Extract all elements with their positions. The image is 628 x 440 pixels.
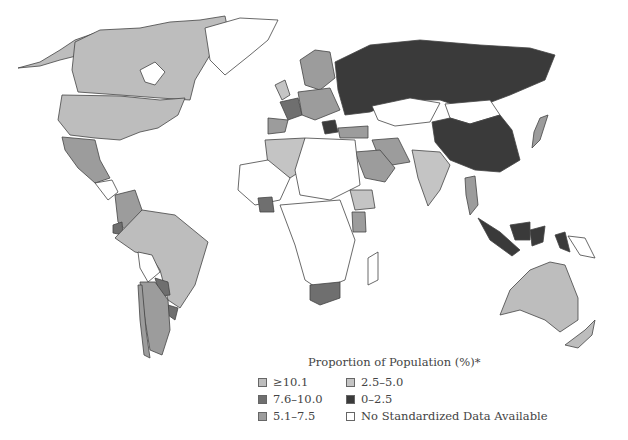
legend-swatch bbox=[258, 412, 267, 421]
region-france bbox=[280, 98, 302, 120]
region-central-europe bbox=[298, 88, 340, 120]
legend-swatch bbox=[346, 378, 355, 387]
region-balkans bbox=[322, 120, 338, 134]
region-indonesia bbox=[478, 218, 570, 256]
region-papua bbox=[568, 236, 595, 258]
legend-swatch bbox=[258, 395, 267, 404]
region-madagascar bbox=[368, 252, 378, 285]
region-scandinavia bbox=[300, 50, 335, 90]
region-india bbox=[412, 150, 450, 206]
region-australia bbox=[500, 262, 578, 332]
region-central-america bbox=[95, 180, 118, 200]
world-map bbox=[0, 0, 628, 360]
region-ethiopia bbox=[350, 190, 375, 210]
legend-label: 5.1–7.5 bbox=[273, 409, 315, 423]
legend-title: Proportion of Population (%)* bbox=[308, 355, 618, 369]
legend-item: No Standardized Data Available bbox=[346, 409, 606, 423]
map-legend: Proportion of Population (%)* ≥10.1 2.5–… bbox=[258, 355, 618, 423]
legend-swatch bbox=[346, 395, 355, 404]
region-spain bbox=[268, 118, 288, 134]
region-united-kingdom bbox=[275, 80, 290, 100]
region-kenya bbox=[352, 212, 366, 232]
region-mexico bbox=[62, 137, 110, 183]
legend-label: No Standardized Data Available bbox=[361, 409, 548, 423]
legend-item: 2.5–5.0 bbox=[346, 375, 606, 389]
region-ivory-coast bbox=[258, 197, 274, 212]
legend-label: ≥10.1 bbox=[273, 375, 308, 389]
legend-label: 7.6–10.0 bbox=[273, 392, 323, 406]
region-thailand bbox=[465, 176, 478, 215]
legend-item: ≥10.1 bbox=[258, 375, 346, 389]
region-japan bbox=[532, 115, 548, 148]
legend-label: 0–2.5 bbox=[361, 392, 392, 406]
region-greenland bbox=[205, 18, 278, 75]
legend-item: 7.6–10.0 bbox=[258, 392, 346, 406]
legend-swatch bbox=[258, 378, 267, 387]
region-turkey bbox=[338, 126, 368, 138]
legend-label: 2.5–5.0 bbox=[361, 375, 403, 389]
region-united-states bbox=[58, 95, 185, 140]
region-central-southern-africa bbox=[280, 200, 355, 290]
region-south-africa bbox=[310, 282, 340, 305]
legend-item: 5.1–7.5 bbox=[258, 409, 346, 423]
legend-swatch bbox=[346, 412, 355, 421]
legend-item: 0–2.5 bbox=[346, 392, 606, 406]
